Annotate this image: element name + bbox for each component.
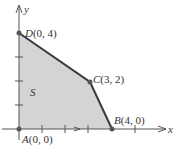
y-axis-label: y bbox=[23, 3, 29, 15]
vertex-b-label: B(4, 0) bbox=[114, 114, 145, 127]
vertex-a-dot bbox=[17, 127, 22, 132]
feasible-region-diagram: y x S D(0, 4) C(3, 2) B(4, 0) A(0, 0) bbox=[0, 0, 177, 147]
vertex-a-label: A(0, 0) bbox=[21, 133, 53, 146]
vertex-d-dot bbox=[17, 31, 22, 36]
vertex-c-dot bbox=[88, 80, 93, 85]
x-axis-label: x bbox=[167, 123, 173, 135]
vertex-d-label: D(0, 4) bbox=[24, 27, 57, 40]
vertex-c-label: C(3, 2) bbox=[93, 73, 125, 86]
region-label: S bbox=[30, 86, 36, 98]
vertex-b-dot bbox=[110, 127, 115, 132]
